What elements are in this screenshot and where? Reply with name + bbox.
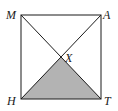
label-t: T xyxy=(104,94,112,108)
shaded-triangle-hxt xyxy=(21,57,101,99)
label-x: X xyxy=(64,51,73,65)
label-a: A xyxy=(102,8,111,22)
label-m: M xyxy=(5,8,17,22)
label-h: H xyxy=(6,94,17,108)
geometry-diagram: M A X H T xyxy=(0,0,118,111)
